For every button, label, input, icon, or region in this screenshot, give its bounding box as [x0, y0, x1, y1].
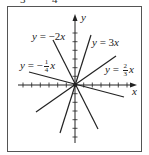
- label-y-neg-quarter-x: y = −14x: [20, 59, 55, 74]
- y-axis-arrow-icon: [73, 14, 78, 21]
- y-axis-label: y: [81, 12, 86, 23]
- origin-point: [73, 83, 77, 87]
- label-y-neg2x: yy = = −2x: [32, 31, 65, 42]
- label-y-3x: y = 3x: [92, 37, 119, 48]
- x-axis-label: x: [132, 86, 137, 97]
- label-y-two-thirds-x: y = 23x: [105, 63, 134, 78]
